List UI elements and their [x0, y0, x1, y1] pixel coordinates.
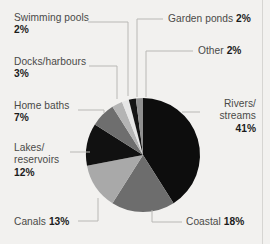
leader-line-other — [146, 51, 193, 97]
slice-label-name: Docks/harbours — [14, 56, 86, 67]
slice-label-name: Other — [198, 45, 224, 56]
leader-line-home-baths — [78, 110, 104, 113]
slice-label-coastal: Coastal 18% — [186, 216, 244, 228]
slice-label-name-line1: Rivers/ — [224, 98, 256, 109]
chart-canvas: Swimming pools 2% Docks/harbours 3% Home… — [0, 0, 270, 244]
slice-label-value: 18% — [224, 216, 245, 227]
slice-label-value: 2% — [14, 24, 29, 35]
slice-label-value: 3% — [14, 68, 29, 79]
slice-label-rivers-streams: Rivers/ streams 41% — [206, 98, 256, 135]
leader-line-docks-harbours — [89, 66, 117, 99]
slice-label-lakes-reservoirs: Lakes/ reservoirs 12% — [14, 142, 59, 179]
slice-label-name: Swimming pools — [14, 12, 89, 23]
right-border-rule — [262, 0, 263, 244]
slice-label-name: Canals — [14, 216, 46, 227]
slice-label-name-line2: streams — [219, 110, 256, 121]
slice-label-value: 12% — [14, 167, 35, 178]
slice-label-home-baths: Home baths 7% — [14, 100, 69, 125]
slice-label-name-line2: reservoirs — [14, 154, 59, 165]
leader-line-coastal — [152, 210, 182, 222]
leader-line-swimming-pools — [88, 22, 128, 96]
slice-label-garden-ponds: Garden ponds 2% — [168, 13, 251, 25]
slice-label-value: 2% — [236, 13, 251, 24]
slice-label-name: Home baths — [14, 100, 69, 111]
leader-line-canals — [78, 198, 98, 221]
leader-line-garden-ponds — [137, 19, 163, 97]
slice-label-docks-harbours: Docks/harbours 3% — [14, 56, 86, 81]
slice-label-value: 7% — [14, 112, 29, 123]
slice-label-value: 2% — [227, 45, 242, 56]
slice-label-other: Other 2% — [198, 45, 241, 57]
slice-label-value: 13% — [49, 216, 70, 227]
slice-label-name-line1: Lakes/ — [14, 142, 44, 153]
slice-label-name: Coastal — [186, 216, 221, 227]
slice-label-value: 41% — [235, 123, 256, 134]
slice-label-canals: Canals 13% — [14, 216, 69, 228]
slice-label-swimming-pools: Swimming pools 2% — [14, 12, 89, 37]
slice-label-name: Garden ponds — [168, 13, 233, 24]
pie-slices — [86, 98, 200, 212]
